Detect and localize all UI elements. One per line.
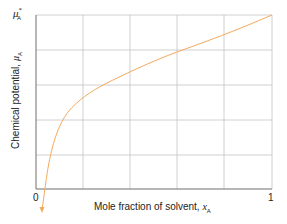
chemical-potential-curve [42,15,272,210]
x-tick-0: 0 [33,192,39,203]
arrow-down-icon [40,207,45,213]
mu-star-tick-label: μ*A [13,6,21,21]
x-tick-1: 1 [268,192,274,203]
grid-lines [36,15,272,189]
chart-plot-area [0,0,287,224]
x-axis-label: Mole fraction of solvent, xA [94,201,211,214]
axes [36,15,272,189]
y-axis-label: Chemical potential, μA [10,31,23,171]
